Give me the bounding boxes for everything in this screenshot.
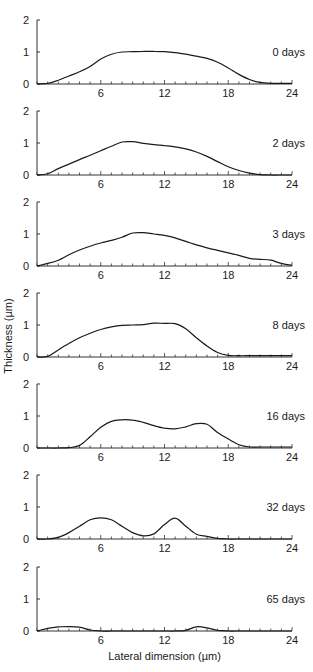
x-tick-label: 24	[286, 178, 298, 190]
panel-label: 3 days	[273, 228, 306, 240]
panel-label: 8 days	[273, 319, 306, 331]
x-tick-label: 12	[158, 269, 170, 281]
x-tick-label: 18	[222, 178, 234, 190]
y-tick-label: 2	[23, 14, 29, 26]
panel-label: 0 days	[273, 46, 306, 58]
x-tick-label: 6	[98, 178, 104, 190]
x-tick-label: 24	[286, 451, 298, 463]
y-tick-label: 0	[23, 351, 29, 363]
thickness-profile-curve	[37, 420, 292, 448]
y-tick-label: 1	[23, 410, 29, 422]
x-tick-label: 24	[286, 542, 298, 554]
thickness-profile-curve	[37, 142, 292, 176]
x-tick-label: 12	[158, 360, 170, 372]
panel-label: 16 days	[266, 410, 305, 422]
y-tick-label: 0	[23, 442, 29, 454]
y-tick-label: 0	[23, 625, 29, 637]
thickness-profile-curve	[37, 51, 292, 84]
y-tick-label: 1	[23, 593, 29, 605]
x-tick-label: 24	[286, 634, 298, 646]
thickness-profile-curve	[37, 323, 292, 357]
x-tick-label: 6	[98, 269, 104, 281]
y-axis-label: Thickness (µm)	[2, 298, 14, 373]
x-tick-label: 6	[98, 451, 104, 463]
x-tick-label: 24	[286, 87, 298, 99]
y-tick-label: 0	[23, 169, 29, 181]
x-tick-label: 12	[158, 542, 170, 554]
x-tick-label: 18	[222, 634, 234, 646]
figure: 01261218240 days01261218242 days01261218…	[0, 0, 313, 672]
y-tick-label: 2	[23, 469, 29, 481]
y-tick-label: 1	[23, 137, 29, 149]
x-tick-label: 18	[222, 542, 234, 554]
y-tick-label: 0	[23, 78, 29, 90]
y-tick-label: 0	[23, 533, 29, 545]
y-tick-label: 1	[23, 46, 29, 58]
y-tick-label: 2	[23, 378, 29, 390]
x-tick-label: 6	[98, 542, 104, 554]
x-tick-label: 6	[98, 360, 104, 372]
x-tick-label: 12	[158, 87, 170, 99]
y-tick-label: 2	[23, 561, 29, 573]
x-tick-label: 24	[286, 269, 298, 281]
x-tick-label: 12	[158, 178, 170, 190]
y-tick-label: 2	[23, 196, 29, 208]
y-tick-label: 0	[23, 260, 29, 272]
y-tick-label: 2	[23, 105, 29, 117]
x-tick-label: 18	[222, 269, 234, 281]
panel-label: 65 days	[266, 593, 305, 605]
x-tick-label: 24	[286, 360, 298, 372]
panel-label: 32 days	[266, 501, 305, 513]
x-tick-label: 12	[158, 451, 170, 463]
y-tick-label: 2	[23, 287, 29, 299]
x-tick-label: 6	[98, 634, 104, 646]
x-tick-label: 6	[98, 87, 104, 99]
stacked-thickness-profiles: 01261218240 days01261218242 days01261218…	[0, 0, 313, 672]
x-tick-label: 18	[222, 360, 234, 372]
thickness-profile-curve	[37, 233, 292, 266]
x-axis-label: Lateral dimension (µm)	[0, 650, 313, 662]
panel-label: 2 days	[273, 137, 306, 149]
x-tick-label: 18	[222, 87, 234, 99]
y-tick-label: 1	[23, 501, 29, 513]
y-tick-label: 1	[23, 228, 29, 240]
x-tick-label: 12	[158, 634, 170, 646]
y-tick-label: 1	[23, 319, 29, 331]
x-tick-label: 18	[222, 451, 234, 463]
